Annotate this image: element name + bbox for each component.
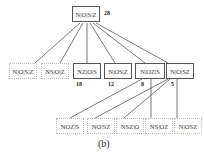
level2-node: NSZ|O	[116, 118, 144, 134]
root-count: 28	[104, 10, 110, 16]
level1-node: N|OS|Z	[104, 63, 132, 79]
figure-caption: (b)	[98, 138, 110, 149]
level1-node: N|OZ|S	[135, 63, 165, 79]
level1-node: NS|O|Z	[41, 63, 69, 79]
level1-node: NZ|O|S	[73, 63, 101, 79]
node-count: 8	[141, 81, 144, 87]
node-count: 5	[171, 81, 174, 87]
root-node: N|O|S|Z	[72, 6, 100, 22]
level2-node: NO|SZ	[87, 118, 115, 134]
node-count: 12	[108, 81, 114, 87]
level2-node: N|OSZ	[174, 118, 202, 134]
level2-node: NOZ|S	[56, 118, 84, 134]
level1-node: N|O|SZ	[166, 63, 194, 79]
level2-node: NS|OZ	[145, 118, 173, 134]
level1-node: N|O|S|Z	[9, 63, 37, 79]
node-count: 18	[76, 81, 82, 87]
